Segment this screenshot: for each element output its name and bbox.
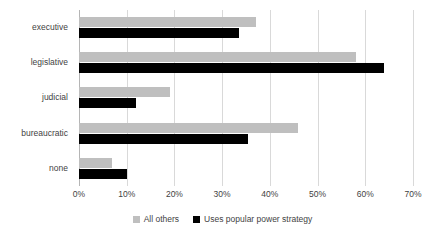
x-tick-label-10: 10% [118,189,135,199]
bar-all-others-legislative [79,52,356,62]
legend-item-all-others[interactable]: All others [133,214,179,224]
x-tick-label-60: 60% [357,189,374,199]
bar-group-judicial [79,80,413,115]
plot-area [79,10,413,186]
y-axis-label-1: legislative [0,45,68,80]
x-tick-label-0: 0% [73,189,85,199]
bar-group-legislative [79,45,413,80]
y-axis-label-2: judicial [0,80,68,115]
x-tick-label-40: 40% [261,189,278,199]
gray-square-icon [133,216,140,223]
bar-all-others-judicial [79,87,170,97]
bar-popular-power-judicial [79,98,136,108]
x-axis-labels: 0% 10% 20% 30% 40% 50% 60% 70% [0,189,445,203]
bar-chart: executive legislative judicial bureaucra… [0,0,445,243]
bar-popular-power-executive [79,28,239,38]
x-tick-label-30: 30% [214,189,231,199]
legend-item-popular-power-strategy[interactable]: Uses popular power strategy [193,214,312,224]
x-tick-label-70: 70% [404,189,421,199]
legend-label-all-others: All others [144,214,179,224]
bar-group-bureaucratic [79,116,413,151]
legend-label-popular-power-strategy: Uses popular power strategy [204,214,312,224]
x-tick-label-50: 50% [309,189,326,199]
gridline-70 [413,10,414,186]
bar-popular-power-legislative [79,63,384,73]
bar-popular-power-none [79,169,127,179]
bar-group-executive [79,10,413,45]
chart-legend: All others Uses popular power strategy [0,214,445,224]
y-axis-label-4: none [0,151,68,186]
bar-all-others-bureaucratic [79,123,298,133]
bar-all-others-none [79,158,112,168]
x-tick-label-20: 20% [166,189,183,199]
bar-all-others-executive [79,17,256,27]
bar-group-none [79,151,413,186]
y-axis-label-0: executive [0,10,68,45]
y-axis-label-3: bureaucratic [0,116,68,151]
y-axis-labels: executive legislative judicial bureaucra… [0,10,74,186]
black-square-icon [193,216,200,223]
bar-popular-power-bureaucratic [79,134,248,144]
